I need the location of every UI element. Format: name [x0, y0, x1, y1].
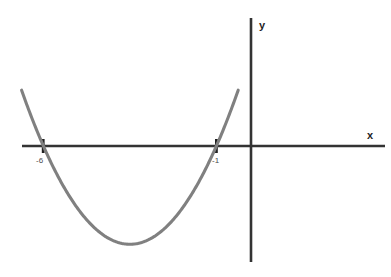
graph-canvas: x y -6 -1 — [0, 0, 391, 277]
x-tick-label-minus-6: -6 — [36, 156, 43, 165]
parabola-curve — [22, 90, 239, 244]
coordinate-plane — [0, 0, 391, 277]
x-axis-label: x — [367, 129, 373, 141]
y-axis-label: y — [259, 19, 265, 31]
x-tick-label-minus-1: -1 — [212, 156, 219, 165]
